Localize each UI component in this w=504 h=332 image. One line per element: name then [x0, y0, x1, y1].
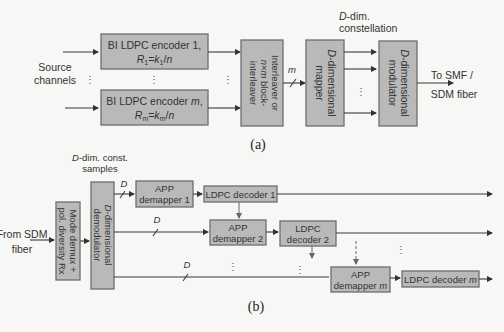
- ellipsis: ⋮: [396, 244, 406, 255]
- demodulator-label-1: D-dimensional: [103, 205, 114, 266]
- encoder-m-label: BI LDPC encoder m,: [106, 95, 202, 107]
- ellipsis: ⋮: [295, 264, 305, 275]
- encoder-1-rate: R1=k1/n: [137, 53, 173, 66]
- mapper-label-1: D-dimensional: [326, 49, 338, 116]
- panel-b: D-dim. const. samples From SDM fiber Mod…: [0, 152, 492, 315]
- app-demapper-1-label-1: APP: [155, 183, 174, 194]
- panel-a: Source channels ⋮ BI LDPC encoder 1, R1=…: [34, 10, 478, 153]
- ldpc-decoder-m-label: LDPC decoder m: [404, 274, 477, 285]
- encoder-1-label: BI LDPC encoder 1,: [108, 39, 201, 51]
- app-demapper-m-label-2: demapper m: [334, 280, 387, 291]
- interleaver-label-2: n×m block-: [259, 60, 270, 107]
- bus-width-d: D: [154, 214, 161, 225]
- mapper-label-2: mapper: [314, 65, 326, 101]
- demodulator-label-2: demodulator: [92, 209, 103, 262]
- interleaver-label-3: interleaver: [248, 61, 259, 105]
- encoder-m-rate: Rm=km/n: [135, 109, 175, 122]
- bus-width-m: m: [288, 64, 296, 75]
- app-demapper-2-label-2: demapper 2: [213, 233, 264, 244]
- samples-label-1: D-dim. const.: [72, 152, 128, 163]
- bus-width-d: D: [184, 259, 191, 270]
- from-sdm-label-2: fiber: [12, 243, 33, 255]
- constellation-label-1: D-dim.: [339, 10, 370, 22]
- interleaver-label-1: Interleaver or: [270, 55, 281, 111]
- ldpc-decoder-2-label-2: decoder 2: [287, 234, 329, 245]
- constellation-label-2: constellation: [339, 22, 398, 34]
- ellipsis: ⋮: [223, 74, 233, 85]
- source-channels-label-2: channels: [34, 74, 76, 86]
- demux-label-2: pol. diversity Rx: [57, 207, 68, 274]
- block-diagram: Source channels ⋮ BI LDPC encoder 1, R1=…: [0, 0, 504, 332]
- ellipsis: ⋮: [85, 74, 95, 85]
- caption-b: (b): [248, 299, 265, 315]
- output-label-1: To SMF /: [431, 69, 473, 81]
- app-demapper-2-label-1: APP: [228, 222, 247, 233]
- ldpc-decoder-2-label-1: LDPC: [295, 223, 320, 234]
- caption-a: (a): [250, 137, 266, 153]
- ellipsis: ⋮: [228, 261, 238, 272]
- app-demapper-m-label-1: APP: [351, 269, 370, 280]
- samples-label-2: samples: [82, 163, 118, 174]
- ldpc-decoder-1-label: LDPC decoder 1: [205, 189, 275, 200]
- modulator-label-2: modulator: [387, 60, 399, 107]
- modulator-label-1: D-dimensional: [399, 49, 411, 116]
- source-channels-label: Source: [38, 61, 71, 73]
- ellipsis: ⋮: [356, 86, 366, 97]
- bus-width-d: D: [121, 178, 128, 189]
- demux-label-1: Mode demux +: [68, 209, 79, 273]
- from-sdm-label-1: From SDM: [0, 228, 47, 240]
- app-demapper-1-label-2: demapper 1: [139, 194, 190, 205]
- ellipsis: ⋮: [149, 74, 159, 85]
- output-label-2: SDM fiber: [431, 88, 478, 100]
